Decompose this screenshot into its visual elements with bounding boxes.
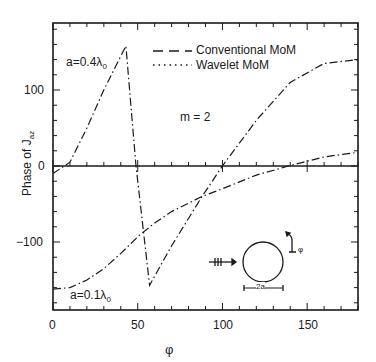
chart-svg — [0, 0, 376, 362]
legend-conventional: Conventional MoM — [196, 43, 296, 57]
inset-phi-label: φ — [298, 245, 303, 254]
a04-text: a=0.4λ — [66, 55, 102, 69]
series-lines — [53, 46, 358, 289]
tick-label-x50: 50 — [131, 318, 144, 332]
a01-sub: 0 — [106, 295, 110, 304]
tick-label-x0: 0 — [49, 318, 56, 332]
ylabel-sub: az — [27, 131, 36, 139]
tick-label-y100: 100 — [24, 83, 44, 97]
ylabel-text: Phase of J — [20, 139, 34, 196]
inset-2a-label: 2a — [256, 282, 265, 291]
a04-sub: 0 — [102, 62, 106, 71]
series-a01 — [53, 152, 358, 289]
tick-label-ym100: −100 — [16, 235, 43, 249]
annotation-a04: a=0.4λ0 — [66, 55, 107, 71]
x-axis-label: φ — [165, 342, 173, 357]
m-label: m = 2 — [180, 110, 210, 124]
a01-text: a=0.1λ — [70, 288, 106, 302]
tick-label-x100: 100 — [213, 318, 233, 332]
tick-label-x150: 150 — [298, 318, 318, 332]
cylinder-inset — [209, 232, 296, 291]
y-axis-label: Phase of Jaz — [20, 131, 36, 196]
annotation-a01: a=0.1λ0 — [70, 288, 111, 304]
legend-wavelet: Wavelet MoM — [196, 58, 269, 72]
tick-label-y0: 0 — [38, 159, 45, 173]
